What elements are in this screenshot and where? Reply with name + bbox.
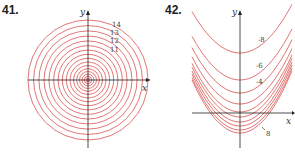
contour-plot-parabolas: yx-8-6-48 — [0, 0, 295, 156]
svg-text:-4: -4 — [256, 78, 263, 86]
svg-text:y: y — [231, 7, 238, 17]
svg-text:-8: -8 — [258, 36, 265, 44]
svg-text:8: 8 — [266, 130, 270, 138]
svg-text:x: x — [286, 116, 291, 126]
svg-text:-6: -6 — [256, 62, 263, 70]
